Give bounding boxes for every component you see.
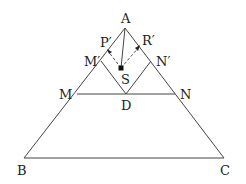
label-N: N — [180, 87, 191, 102]
segment-SRprime — [121, 47, 139, 68]
label-N-prime: N′ — [156, 54, 170, 69]
segment-SPprime — [108, 51, 121, 68]
label-S: S — [121, 72, 130, 87]
geometry-diagram: A B C M N D M′ N′ P′ R′ S — [0, 0, 246, 184]
label-M-prime: M′ — [84, 54, 100, 69]
label-B: B — [17, 163, 27, 178]
label-C: C — [220, 163, 230, 178]
point-S-dot — [119, 66, 124, 71]
label-M: M — [59, 87, 72, 102]
label-A: A — [120, 11, 131, 26]
segment-AC — [125, 28, 224, 158]
label-D: D — [121, 98, 131, 113]
segment-AS — [121, 28, 125, 68]
arrow-R-prime-icon — [135, 45, 140, 51]
label-P-prime: P′ — [100, 35, 112, 50]
label-R-prime: R′ — [142, 33, 155, 48]
